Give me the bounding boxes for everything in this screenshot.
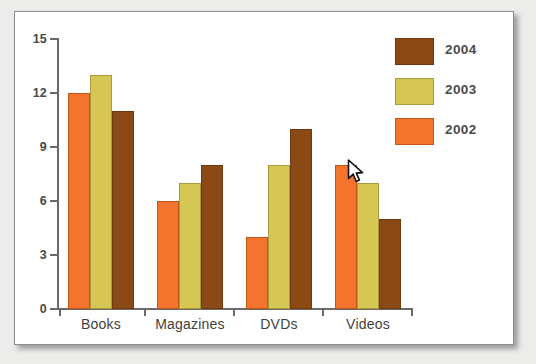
bar-videos-2004[interactable] (379, 219, 401, 309)
bar-dvds-2002[interactable] (246, 237, 268, 309)
legend-item-2002[interactable]: 2002 (395, 114, 507, 154)
y-axis-tick (50, 254, 59, 256)
y-axis-tick-label: 15 (23, 32, 47, 46)
x-axis-tick (322, 308, 324, 316)
legend-item-2003[interactable]: 2003 (395, 74, 507, 114)
legend-swatch-2004 (395, 38, 434, 65)
legend-item-2004[interactable]: 2004 (395, 34, 507, 74)
x-axis-label-books: Books (54, 316, 148, 332)
chart-card: 03691215 BooksMagazinesDVDsVideos 200420… (14, 11, 514, 345)
legend-label-2002: 2002 (445, 122, 477, 137)
bar-books-2003[interactable] (90, 75, 112, 309)
chart-legend: 200420032002 (395, 34, 507, 154)
legend-label-2004: 2004 (445, 42, 477, 57)
bar-chart: 03691215 BooksMagazinesDVDsVideos 200420… (15, 12, 515, 346)
y-axis-tick (50, 38, 59, 40)
legend-swatch-2003 (395, 78, 434, 105)
bar-videos-2002[interactable] (335, 165, 357, 309)
bar-videos-2003[interactable] (357, 183, 379, 309)
x-axis-tick (411, 308, 413, 316)
legend-label-2003: 2003 (445, 82, 477, 97)
y-axis-tick-label: 9 (23, 140, 47, 154)
bar-books-2002[interactable] (68, 93, 90, 309)
y-axis-tick-label: 3 (23, 248, 47, 262)
screenshot-root: 03691215 BooksMagazinesDVDsVideos 200420… (0, 0, 536, 364)
y-axis-tick-label: 6 (23, 194, 47, 208)
x-axis-label-dvds: DVDs (232, 316, 326, 332)
y-axis-line (57, 38, 59, 310)
bar-dvds-2004[interactable] (290, 129, 312, 309)
y-axis-tick (50, 146, 59, 148)
bar-magazines-2003[interactable] (179, 183, 201, 309)
bar-magazines-2004[interactable] (201, 165, 223, 309)
bar-books-2004[interactable] (112, 111, 134, 309)
y-axis-tick (50, 92, 59, 94)
y-axis-tick-label: 0 (23, 302, 47, 316)
x-axis-label-videos: Videos (321, 316, 415, 332)
bar-magazines-2002[interactable] (157, 201, 179, 309)
y-axis-tick-label: 12 (23, 86, 47, 100)
x-axis-tick (233, 308, 235, 316)
y-axis-tick (50, 200, 59, 202)
legend-swatch-2002 (395, 118, 434, 145)
x-axis-label-magazines: Magazines (143, 316, 237, 332)
x-axis-tick (59, 308, 61, 316)
bar-dvds-2003[interactable] (268, 165, 290, 309)
y-axis-tick (50, 308, 59, 310)
x-axis-tick (144, 308, 146, 316)
